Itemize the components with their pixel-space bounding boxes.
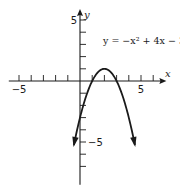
x-tick-label: 5 xyxy=(138,84,144,95)
y-tick-label: −5 xyxy=(88,137,103,148)
y-axis-label: y xyxy=(83,9,90,20)
y-axis-arrow xyxy=(77,9,83,16)
curve-end-arrow xyxy=(72,137,78,147)
equation-label: y = −x² + 4x − 3 xyxy=(102,35,180,46)
x-axis-label: x xyxy=(165,68,171,79)
curve-end-arrow xyxy=(130,137,136,147)
chart: −555−5 y = −x² + 4x − 3 x y xyxy=(0,0,180,186)
x-tick-label: −5 xyxy=(12,84,27,95)
y-tick-label: 5 xyxy=(71,15,77,26)
